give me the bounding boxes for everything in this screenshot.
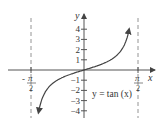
svg-text:-: - <box>22 74 25 84</box>
x-tick-neg-pi-over-2: - π 2 <box>22 67 36 93</box>
svg-text:3: 3 <box>76 34 81 44</box>
tan-plot: y x 4321−1−2−3−4 - π 2 π 2 y = tan (x) <box>0 0 161 132</box>
svg-text:2: 2 <box>136 84 140 93</box>
function-label: y = tan (x) <box>92 89 132 100</box>
svg-text:−1: −1 <box>70 75 80 85</box>
x-tick-pi-over-2: π 2 <box>134 67 143 93</box>
y-axis-label: y <box>74 10 80 21</box>
svg-text:2: 2 <box>29 84 33 93</box>
svg-text:π: π <box>135 73 140 83</box>
svg-text:−2: −2 <box>70 85 80 95</box>
svg-text:−3: −3 <box>70 96 80 106</box>
svg-text:−4: −4 <box>70 106 80 116</box>
x-axis-label: x <box>147 72 153 83</box>
svg-text:4: 4 <box>76 24 81 34</box>
svg-text:1: 1 <box>76 55 81 65</box>
svg-text:2: 2 <box>76 45 81 55</box>
svg-text:π: π <box>28 73 33 83</box>
